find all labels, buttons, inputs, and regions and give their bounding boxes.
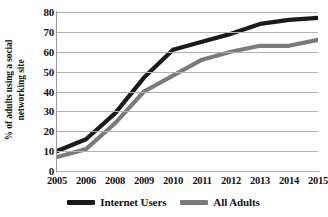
gridline — [57, 92, 318, 93]
gridline — [57, 32, 318, 33]
x-axis-tick-label: 2011 — [192, 174, 211, 188]
legend-entry[interactable]: All Adults — [180, 196, 259, 208]
x-axis-tick-label: 2015 — [308, 174, 328, 188]
y-axis-tick-labels: 01020304050607080 — [26, 0, 54, 180]
y-axis-tick-label: 70 — [26, 27, 54, 37]
gridline — [57, 171, 318, 172]
legend-label: Internet Users — [100, 196, 166, 208]
y-axis-tick-label: 60 — [26, 47, 54, 57]
x-axis-tick-label: 2008 — [105, 174, 125, 188]
gridline — [57, 131, 318, 132]
x-axis-tick-label: 2013 — [250, 174, 270, 188]
y-axis-tick-label: 20 — [26, 126, 54, 136]
y-axis-title-line-1: % of adults using a social — [4, 40, 14, 141]
gridline — [57, 12, 318, 13]
legend-entry[interactable]: Internet Users — [67, 196, 166, 208]
x-axis-tick-label: 2006 — [76, 174, 96, 188]
x-axis-tick-label: 2010 — [163, 174, 183, 188]
x-axis-tick-label: 2005 — [47, 174, 67, 188]
gridline — [57, 72, 318, 73]
gridline — [57, 52, 318, 53]
x-axis-tick-label: 2009 — [134, 174, 154, 188]
legend-swatch-icon — [67, 200, 95, 205]
y-axis-title-line-2: networking site — [16, 59, 26, 120]
chart-legend: Internet UsersAll Adults — [0, 193, 327, 211]
x-axis-tick-label: 2012 — [221, 174, 241, 188]
x-axis-tick-label: 2014 — [279, 174, 299, 188]
legend-label: All Adults — [213, 196, 259, 208]
gridline — [57, 151, 318, 152]
legend-swatch-icon — [180, 200, 208, 205]
y-axis-tick-label: 30 — [26, 106, 54, 116]
plot-area — [57, 12, 318, 171]
y-axis-tick-label: 40 — [26, 87, 54, 97]
y-axis-tick-label: 10 — [26, 146, 54, 156]
x-axis-tick-labels: 2005200620082009201020112012201320142015 — [57, 174, 318, 190]
series-line-all-adults — [57, 40, 318, 157]
y-axis-tick-label: 80 — [26, 7, 54, 17]
gridline — [57, 111, 318, 112]
y-axis-tick-label: 50 — [26, 67, 54, 77]
